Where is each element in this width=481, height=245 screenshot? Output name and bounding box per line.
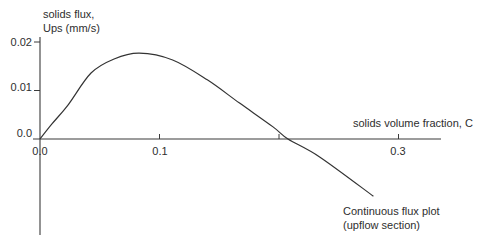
axis-ticks: [34, 42, 399, 139]
y-tick-label-0.0: 0.0: [4, 127, 32, 140]
x-tick-label-0.3: 0.3: [383, 145, 413, 158]
curve-annotation: Continuous flux plot (upflow section): [343, 205, 440, 232]
x-tick-label-0.1: 0.1: [145, 145, 175, 158]
y-axis-label-line-2: Ups (mm/s): [43, 22, 100, 35]
y-tick-label-0.01: 0.01: [4, 81, 32, 94]
annotation-line-1: Continuous flux plot: [343, 205, 440, 218]
y-axis-label: solids flux, Ups (mm/s): [43, 8, 100, 35]
x-tick-label-0.0: 0.0: [25, 145, 55, 158]
annotation-line-2: (upflow section): [343, 219, 440, 232]
x-axis-label: solids volume fraction, C: [353, 117, 473, 130]
flux-curve: [40, 53, 373, 196]
y-axis-label-line-1: solids flux,: [43, 8, 100, 21]
y-tick-label-0.02: 0.02: [4, 36, 32, 49]
